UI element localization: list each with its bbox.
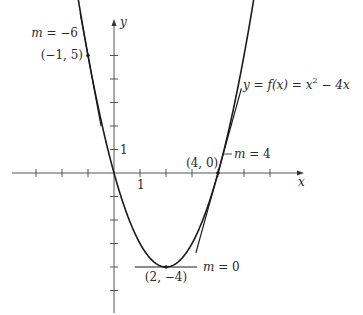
point-label-4-0: (4, 0) — [186, 156, 218, 170]
slope-label-neg6: m = −6 — [31, 26, 78, 40]
tangent-line-m-4 — [196, 88, 242, 253]
point-2-neg4 — [164, 265, 168, 269]
function-label: y = f(x) = x2 − 4x — [242, 76, 350, 92]
parabola-curve — [78, 0, 254, 267]
y-axis-arrow-icon — [112, 19, 117, 26]
tangent-line-m-neg6 — [80, 13, 101, 126]
point-label-neg1-5: (−1, 5) — [41, 48, 83, 62]
y-axis-label: y — [119, 15, 127, 29]
y-unit-label: 1 — [120, 143, 128, 157]
point-label-2-neg4: (2, −4) — [145, 270, 187, 284]
slope-label-0: m = 0 — [203, 260, 240, 274]
x-unit-label: 1 — [137, 178, 145, 192]
tangent-lines-diagram: x y 1 1 m = −6 (−1, 5) (2, −4) m = 0 (4,… — [0, 0, 363, 315]
point-neg1-5 — [86, 54, 90, 58]
function-label-main: y = f(x) = x — [242, 78, 313, 92]
function-label-tail: − 4x — [318, 78, 350, 92]
point-4-0 — [216, 171, 220, 175]
slope-label-4: m = 4 — [234, 147, 271, 161]
x-axis-label: x — [298, 175, 305, 189]
